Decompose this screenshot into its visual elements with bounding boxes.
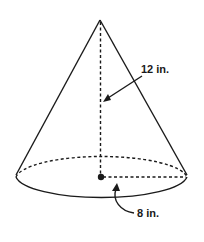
height-arrow-head: [103, 94, 111, 102]
center-point: [98, 174, 104, 180]
cone-diagram: 12 in. 8 in.: [0, 0, 204, 242]
radius-arrow-shaft: [115, 189, 134, 213]
radius-arrow-head: [112, 183, 120, 191]
cone-left-side: [16, 20, 100, 175]
height-label: 12 in.: [141, 63, 169, 75]
cone-right-side: [100, 20, 187, 175]
radius-label: 8 in.: [137, 207, 159, 219]
